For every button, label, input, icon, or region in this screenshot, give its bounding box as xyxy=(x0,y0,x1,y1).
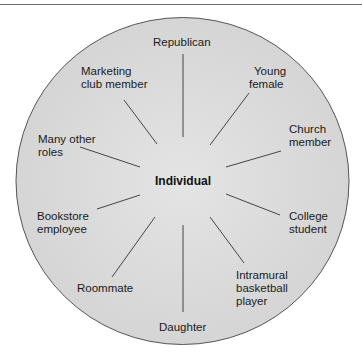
role-bookstore-employee: Bookstore employee xyxy=(37,210,89,236)
role-many-other-roles: Many other roles xyxy=(38,133,96,159)
role-church-member: Church member xyxy=(289,123,331,149)
role-republican: Republican xyxy=(153,36,211,49)
role-roommate: Roommate xyxy=(77,282,133,295)
role-marketing-club-member: Marketing club member xyxy=(81,65,147,91)
role-daughter: Daughter xyxy=(159,321,206,334)
role-intramural-basketball-player: Intramural basketball player xyxy=(236,269,288,308)
role-young-female: Young female xyxy=(249,65,286,91)
center-label-individual: Individual xyxy=(155,174,211,188)
role-college-student: College student xyxy=(289,210,328,236)
